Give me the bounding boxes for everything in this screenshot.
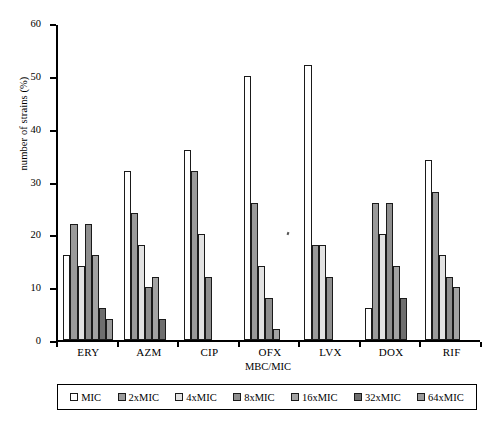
- legend-item-4xmic[interactable]: 4xMIC: [175, 392, 216, 403]
- bar: [258, 266, 265, 340]
- x-axis-line: [56, 340, 480, 342]
- x-axis-label-lvx: LVX: [300, 346, 361, 358]
- bar-group-cip: [179, 25, 239, 340]
- y-axis-tick: 50: [50, 77, 56, 79]
- bar: [138, 245, 145, 340]
- bar: [265, 298, 272, 340]
- bar: [319, 245, 326, 340]
- bar: [70, 224, 77, 340]
- x-axis-label-ofx: OFX: [240, 346, 301, 358]
- x-axis-label-dox: DOX: [361, 346, 422, 358]
- bar: [92, 255, 99, 340]
- y-axis-tick: 30: [50, 183, 56, 185]
- bar: [159, 319, 166, 340]
- y-axis-tick-label: 50: [31, 72, 42, 83]
- legend-item-mic[interactable]: MIC: [70, 392, 101, 403]
- bar: [372, 203, 379, 340]
- bar: [152, 277, 159, 340]
- legend-label: 8xMIC: [244, 392, 274, 403]
- y-axis-tick-label: 10: [31, 283, 42, 294]
- bar: [273, 329, 280, 340]
- y-axis-tick: 60: [50, 24, 56, 26]
- legend-label: 4xMIC: [186, 392, 216, 403]
- legend-label: 64xMIC: [428, 392, 464, 403]
- legend-label: MIC: [81, 392, 101, 403]
- bar: [106, 319, 113, 340]
- legend-label: 2xMIC: [129, 392, 159, 403]
- legend-item-8xmic[interactable]: 8xMIC: [233, 392, 274, 403]
- bar: [365, 308, 372, 340]
- y-axis-tick: 20: [50, 235, 56, 237]
- legend: MIC2xMIC4xMIC8xMIC16xMIC32xMIC64xMIC: [57, 384, 477, 410]
- legend-item-2xmic[interactable]: 2xMIC: [118, 392, 159, 403]
- bar: [244, 76, 251, 340]
- plot-area: 0102030405060: [56, 25, 480, 342]
- bar: [63, 255, 70, 340]
- bar-group-ery: [58, 25, 118, 340]
- bar: [386, 203, 393, 340]
- x-axis-label-cip: CIP: [179, 346, 240, 358]
- bar: [400, 298, 407, 340]
- bar-chart: number of strains (%) 0102030405060 ERYA…: [0, 0, 493, 428]
- legend-item-32xmic[interactable]: 32xMIC: [354, 392, 401, 403]
- bar: [198, 234, 205, 340]
- legend-swatch-icon: [291, 393, 299, 401]
- bar: [312, 245, 319, 340]
- bar-groups: [58, 25, 480, 340]
- bar: [446, 277, 453, 340]
- y-axis-tick: 10: [50, 288, 56, 290]
- x-axis-category-labels: ERYAZMCIPOFXLVXDOXRIF: [58, 346, 482, 358]
- y-axis-tick-label: 40: [31, 124, 42, 135]
- bar: [145, 287, 152, 340]
- legend-swatch-icon: [70, 393, 78, 401]
- bar: [432, 192, 439, 340]
- bar: [251, 203, 258, 340]
- y-axis-tick-label: 20: [31, 230, 42, 241]
- bar-group-dox: [359, 25, 419, 340]
- legend-swatch-icon: [233, 393, 241, 401]
- bar: [326, 277, 333, 340]
- y-axis-title: number of strains (%): [18, 49, 29, 199]
- legend-swatch-icon: [118, 393, 126, 401]
- y-axis-tick: 40: [50, 130, 56, 132]
- y-axis-tick-label: 0: [36, 336, 41, 347]
- legend-item-64xmic[interactable]: 64xMIC: [417, 392, 464, 403]
- bar: [78, 266, 85, 340]
- bar: [425, 160, 432, 340]
- bar: [85, 224, 92, 340]
- bar: [453, 287, 460, 340]
- x-axis-label-rif: RIF: [421, 346, 482, 358]
- x-axis-label-azm: AZM: [119, 346, 180, 358]
- bar: [304, 65, 311, 340]
- bar-group-ofx: [239, 25, 299, 340]
- bar: [205, 277, 212, 340]
- bar-group-rif: [420, 25, 480, 340]
- bar: [439, 255, 446, 340]
- legend-swatch-icon: [417, 393, 425, 401]
- bar: [379, 234, 386, 340]
- bar: [393, 266, 400, 340]
- legend-item-16xmic[interactable]: 16xMIC: [291, 392, 338, 403]
- bar: [131, 213, 138, 340]
- bar: [191, 171, 198, 340]
- bar-group-azm: [118, 25, 178, 340]
- x-axis-label-ery: ERY: [58, 346, 119, 358]
- y-axis-tick-label: 60: [31, 19, 42, 30]
- legend-swatch-icon: [354, 393, 362, 401]
- legend-label: 32xMIC: [365, 392, 401, 403]
- bar-group-lvx: [299, 25, 359, 340]
- bar: [124, 171, 131, 340]
- x-axis-title: MBC/MIC: [56, 361, 480, 372]
- bar: [99, 308, 106, 340]
- bar: [184, 150, 191, 340]
- legend-label: 16xMIC: [302, 392, 338, 403]
- y-axis-tick-label: 30: [31, 177, 42, 188]
- legend-swatch-icon: [175, 393, 183, 401]
